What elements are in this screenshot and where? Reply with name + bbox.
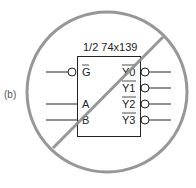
inversion-bubble xyxy=(141,84,149,92)
decoder-diagram: (b) 1/2 74x139 G A B Y0 Y1 Y2 Y3 xyxy=(0,0,196,188)
inversion-bubble xyxy=(141,116,149,124)
figure-label: (b) xyxy=(4,89,16,100)
inversion-bubble xyxy=(141,100,149,108)
output-pin-y3: Y3 xyxy=(122,113,171,126)
pin-label-g: G xyxy=(82,66,91,78)
inversion-bubble xyxy=(68,68,76,76)
prohibition-sign-icon xyxy=(27,12,187,172)
input-pin-a: A xyxy=(46,98,90,110)
prohibition-slash xyxy=(53,37,163,148)
pin-label-a: A xyxy=(82,98,90,110)
output-pin-y2: Y2 xyxy=(122,97,171,110)
pin-label-y2: Y2 xyxy=(122,98,135,110)
pin-label-y1: Y1 xyxy=(122,82,135,94)
output-pin-y1: Y1 xyxy=(122,81,171,94)
pin-label-y3: Y3 xyxy=(122,114,135,126)
input-pin-g: G xyxy=(46,65,91,78)
inversion-bubble xyxy=(141,68,149,76)
chip-title: 1/2 74x139 xyxy=(83,41,137,53)
